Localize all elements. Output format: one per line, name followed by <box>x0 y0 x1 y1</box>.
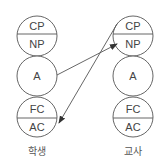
ego-state-diagram: CP NP A FC AC 학생 CP NP A FC <box>0 0 164 164</box>
student-np-label: NP <box>29 38 44 50</box>
student-a-label: A <box>33 70 41 82</box>
teacher-fc-label: FC <box>126 103 141 115</box>
student-fc-label: FC <box>30 103 45 115</box>
teacher-parent-circle: CP NP <box>113 16 153 56</box>
student-cp-label: CP <box>29 20 44 32</box>
teacher-ac-label: AC <box>125 121 140 133</box>
arrow-teacher-cp-to-student-ac <box>59 24 117 123</box>
student-parent-circle: CP NP <box>17 16 57 56</box>
teacher-child-circle: FC AC <box>113 97 153 137</box>
teacher-adult-circle: A <box>113 56 153 96</box>
teacher-np-label: NP <box>125 38 140 50</box>
teacher-column: CP NP A FC AC 교사 <box>113 16 153 157</box>
arrow-student-a-to-teacher-np <box>57 44 117 75</box>
student-child-circle: FC AC <box>17 97 57 137</box>
teacher-a-label: A <box>129 70 137 82</box>
student-adult-circle: A <box>17 56 57 96</box>
teacher-cp-label: CP <box>125 20 140 32</box>
teacher-caption: 교사 <box>124 146 142 157</box>
student-ac-label: AC <box>29 121 44 133</box>
student-column: CP NP A FC AC 학생 <box>17 16 57 157</box>
student-caption: 학생 <box>28 146 46 157</box>
